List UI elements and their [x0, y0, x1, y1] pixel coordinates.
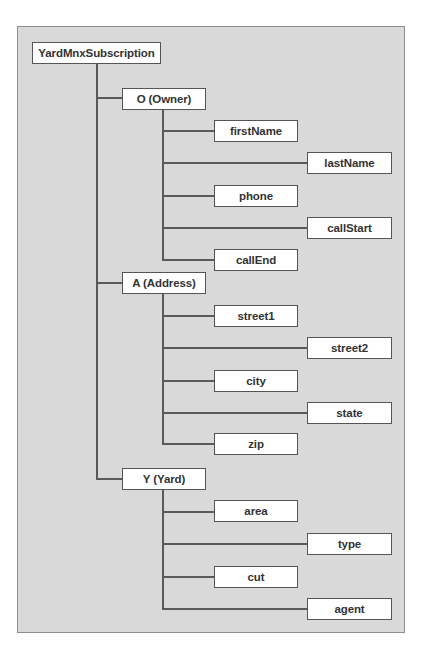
field-node-type: type: [307, 533, 392, 555]
field-node-street1: street1: [214, 305, 298, 327]
area-connector-line: [162, 511, 214, 513]
field-node-street2: street2: [307, 337, 392, 359]
address-trunk-line: [162, 294, 164, 444]
state-connector-line: [162, 412, 307, 414]
field-node-agent: agent: [307, 598, 392, 620]
field-node-callstart: callStart: [307, 217, 392, 239]
field-node-area: area: [214, 500, 298, 522]
root-node: YardMnxSubscription: [32, 42, 161, 64]
owner-connector-line: [96, 97, 122, 99]
street1-connector-line: [162, 315, 214, 317]
field-node-zip: zip: [214, 433, 298, 455]
cut-connector-line: [162, 576, 214, 578]
yard-connector-line: [96, 478, 122, 480]
agent-connector-line: [162, 608, 307, 610]
lastname-connector-line: [162, 162, 307, 164]
field-node-firstname: firstName: [214, 120, 298, 142]
city-connector-line: [162, 380, 214, 382]
group-node-owner: O (Owner): [122, 88, 206, 110]
group-node-yard: Y (Yard): [122, 468, 206, 490]
type-connector-line: [162, 543, 307, 545]
yard-trunk-line: [162, 490, 164, 609]
field-node-cut: cut: [214, 566, 298, 588]
field-node-state: state: [307, 402, 392, 424]
group-node-address: A (Address): [122, 272, 206, 294]
root-trunk-line: [96, 63, 98, 479]
field-node-phone: phone: [214, 185, 298, 207]
owner-trunk-line: [162, 110, 164, 260]
firstname-connector-line: [162, 130, 214, 132]
address-connector-line: [96, 282, 122, 284]
field-node-lastname: lastName: [307, 152, 392, 174]
callstart-connector-line: [162, 227, 307, 229]
phone-connector-line: [162, 195, 214, 197]
zip-connector-line: [162, 443, 214, 445]
street2-connector-line: [162, 347, 307, 349]
field-node-city: city: [214, 370, 298, 392]
field-node-callend: callEnd: [214, 249, 298, 271]
callend-connector-line: [162, 259, 214, 261]
